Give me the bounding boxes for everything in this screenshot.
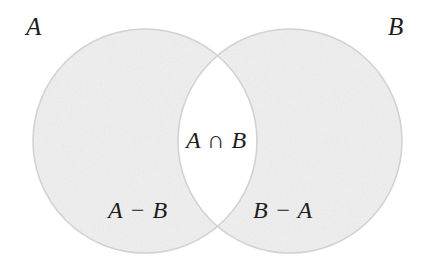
intersection-region-label: A ∩ B xyxy=(186,128,247,152)
a-minus-b-region-label: A − B xyxy=(108,198,168,222)
set-b-label: B xyxy=(388,14,403,39)
b-minus-a-region-label: B − A xyxy=(253,198,313,222)
set-a-label: A xyxy=(26,14,41,39)
venn-diagram-figure: A B A ∩ B A − B B − A xyxy=(0,0,434,273)
